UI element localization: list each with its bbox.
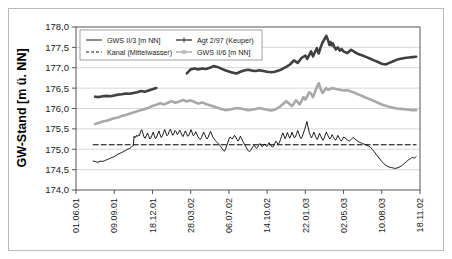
- y-tick-label-4: 176,0: [45, 103, 69, 114]
- x-tick-label-9: 18.11.02: [415, 198, 425, 232]
- y-tick-label-5: 175,5: [45, 123, 69, 134]
- y-tick-label-0: 178,0: [45, 21, 69, 32]
- legend-label-0: GWS II/3 [m NN]: [107, 36, 161, 45]
- x-tick-label-3: 28.03.02: [186, 198, 196, 233]
- chart-legend: GWS II/3 [m NN]Agt 2/97 (Keuper)Kanal (M…: [80, 30, 262, 60]
- y-axis-title: GW-Stand [m ü. NN]: [15, 48, 29, 167]
- x-axis-ticks: [76, 190, 420, 194]
- y-tick-label-1: 177,5: [45, 42, 69, 53]
- y-axis-ticks: [72, 27, 76, 190]
- y-axis-tick-labels: 178,0177,5177,0176,5176,0175,5175,0174,5…: [45, 21, 69, 195]
- x-tick-label-6: 22.01.03: [301, 198, 311, 233]
- x-axis-tick-labels: 01.06.0109.09.0118.12.0128.03.0206.07.02…: [71, 198, 425, 233]
- figure-root: 178,0177,5177,0176,5176,0175,5175,0174,5…: [0, 0, 452, 259]
- x-tick-label-2: 18.12.01: [148, 198, 158, 233]
- legend-label-2: Kanal (Mittelwasser): [107, 48, 172, 57]
- svg-text:GW-Stand [m ü. NN]: GW-Stand [m ü. NN]: [15, 48, 29, 167]
- y-tick-label-2: 177,0: [45, 62, 69, 73]
- x-tick-label-4: 06.07.02: [224, 198, 234, 233]
- legend-label-1: Agt 2/97 (Keuper): [197, 36, 254, 45]
- y-tick-label-7: 174,5: [45, 164, 69, 175]
- x-tick-label-8: 10.08.03: [377, 198, 387, 233]
- y-tick-label-8: 174,0: [45, 184, 69, 195]
- legend-label-3: GWS II/6 [m NN]: [197, 48, 251, 57]
- x-tick-label-1: 09.09.01: [109, 198, 119, 233]
- x-tick-label-7: 02.05.03: [339, 198, 349, 233]
- y-tick-label-6: 175,0: [45, 144, 69, 155]
- x-tick-label-0: 01.06.01: [71, 198, 81, 233]
- y-tick-label-3: 176,5: [45, 83, 69, 94]
- groundwater-level-line-chart: 178,0177,5177,0176,5176,0175,5175,0174,5…: [0, 0, 452, 259]
- x-tick-label-5: 14.10.02: [262, 198, 272, 233]
